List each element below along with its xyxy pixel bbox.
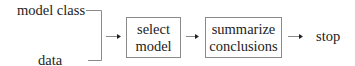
node-summarize-line2: conclusions xyxy=(209,38,277,55)
node-select-model: select model xyxy=(126,17,181,58)
node-summarize-line1: summarize xyxy=(212,21,276,38)
terminal-stop: stop xyxy=(316,29,340,44)
arrow-to-stop xyxy=(288,34,303,39)
node-select-model-line1: select xyxy=(137,21,170,38)
input-bracket xyxy=(86,11,102,61)
arrow-to-summarize xyxy=(186,34,199,39)
node-select-model-line2: model xyxy=(135,38,171,55)
input-data: data xyxy=(38,53,62,66)
input-model-class: model class xyxy=(17,3,85,18)
node-summarize-conclusions: summarize conclusions xyxy=(205,17,282,58)
arrow-to-select-model xyxy=(106,34,121,39)
